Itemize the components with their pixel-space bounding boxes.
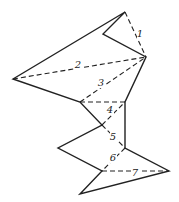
diagonal-label-7: 7: [132, 167, 139, 178]
diagonal-label-1: 1: [137, 28, 143, 39]
diagram-canvas: 1234567: [0, 0, 179, 202]
polygon-diagram: 1234567: [0, 0, 179, 202]
polygon-outline: [13, 12, 169, 194]
diagonal-label-6: 6: [110, 152, 117, 163]
diagonal-label-2: 2: [74, 59, 81, 70]
diagonal-label-5: 5: [110, 131, 116, 142]
diagonal-label-3: 3: [98, 77, 104, 88]
diagonal-label-4: 4: [106, 104, 113, 115]
